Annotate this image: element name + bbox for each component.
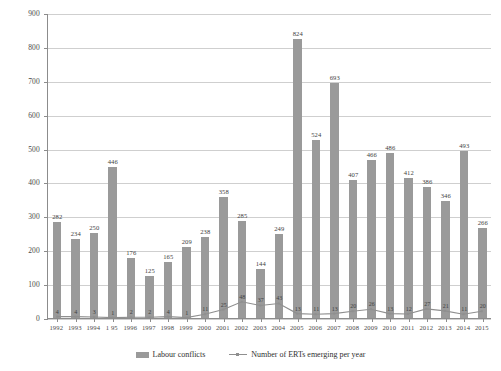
legend-label: Number of ERTs emerging per year bbox=[251, 350, 365, 359]
x-tick-mark bbox=[427, 318, 428, 322]
y-tick-label: 300 bbox=[8, 212, 40, 221]
x-tick-mark bbox=[113, 318, 114, 322]
x-tick-mark bbox=[353, 318, 354, 322]
x-tick-mark bbox=[316, 318, 317, 322]
x-tick-mark bbox=[205, 318, 206, 322]
x-axis-ticks bbox=[48, 14, 491, 318]
x-tick-mark bbox=[224, 318, 225, 322]
y-tick-label: 200 bbox=[8, 246, 40, 255]
y-tick-label: 600 bbox=[8, 111, 40, 120]
x-tick-mark bbox=[390, 318, 391, 322]
x-tick-mark bbox=[150, 318, 151, 322]
x-tick-mark bbox=[335, 318, 336, 322]
y-tick-label: 900 bbox=[8, 9, 40, 18]
x-tick-mark bbox=[464, 318, 465, 322]
y-tick-label: 700 bbox=[8, 77, 40, 86]
x-tick-mark bbox=[76, 318, 77, 322]
x-tick-mark bbox=[131, 318, 132, 322]
x-tick-mark bbox=[298, 318, 299, 322]
y-tick-mark bbox=[44, 319, 48, 320]
x-tick-mark bbox=[187, 318, 188, 322]
x-tick-mark bbox=[372, 318, 373, 322]
x-tick-mark bbox=[168, 318, 169, 322]
x-tick-mark bbox=[446, 318, 447, 322]
x-tick-label: 2015 bbox=[470, 324, 494, 331]
line-swatch-icon bbox=[229, 352, 247, 358]
legend-item-erts: Number of ERTs emerging per year bbox=[229, 350, 365, 359]
y-tick-label: 0 bbox=[8, 314, 40, 323]
x-tick-mark bbox=[94, 318, 95, 322]
x-tick-mark bbox=[242, 318, 243, 322]
x-tick-mark bbox=[279, 318, 280, 322]
x-tick-mark bbox=[409, 318, 410, 322]
bar-swatch-icon bbox=[136, 352, 149, 358]
combo-chart: 2822342504461761251652092383582851442498… bbox=[0, 0, 501, 371]
y-tick-label: 500 bbox=[8, 145, 40, 154]
y-tick-label: 100 bbox=[8, 280, 40, 289]
legend-item-labour-conflicts: Labour conflicts bbox=[136, 350, 206, 359]
legend-label: Labour conflicts bbox=[153, 350, 206, 359]
x-tick-mark bbox=[57, 318, 58, 322]
plot-area: 2822342504461761251652092383582851442498… bbox=[47, 14, 491, 319]
y-tick-label: 400 bbox=[8, 178, 40, 187]
x-tick-mark bbox=[483, 318, 484, 322]
chart-legend: Labour conflicts Number of ERTs emerging… bbox=[0, 350, 501, 359]
gridline bbox=[48, 319, 491, 320]
y-tick-label: 800 bbox=[8, 43, 40, 52]
x-tick-mark bbox=[261, 318, 262, 322]
